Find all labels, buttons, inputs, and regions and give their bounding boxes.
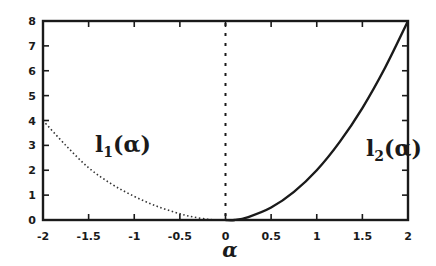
curve-label-l2: l2(α)	[366, 135, 422, 164]
y-tick-label: 0	[28, 214, 36, 227]
x-tick-label: -2	[37, 230, 49, 243]
x-tick-label: -1.5	[77, 230, 101, 243]
x-tick-label: -1	[128, 230, 140, 243]
y-tick-label: 2	[28, 164, 36, 177]
x-tick-label: 0.5	[261, 230, 281, 243]
curve-label-l1: l1(α)	[95, 131, 151, 160]
x-tick-label: 1.5	[353, 230, 373, 243]
curve-l2	[226, 21, 409, 220]
y-tick-label: 6	[28, 65, 36, 78]
y-tick-label: 1	[28, 189, 36, 202]
y-tick-label: 7	[28, 40, 36, 53]
x-axis-label: α	[222, 238, 237, 262]
chart: 012345678 -2-1.5-1-0.500.511.52 l1(α) l2…	[0, 0, 436, 266]
y-tick-label: 4	[28, 115, 36, 128]
y-tick-label: 8	[28, 15, 36, 28]
x-tick-label: -0.5	[168, 230, 192, 243]
y-tick-labels: 012345678	[28, 15, 36, 227]
y-tick-label: 3	[28, 139, 36, 152]
x-tick-label: 2	[404, 230, 412, 243]
x-tick-label: 1	[313, 230, 321, 243]
y-tick-label: 5	[28, 90, 36, 103]
